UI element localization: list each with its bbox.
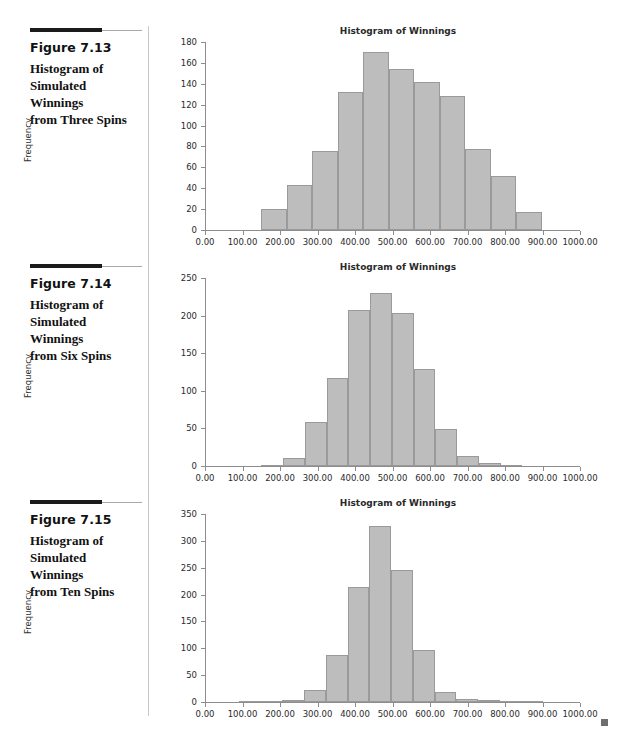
histogram-bar [305,422,327,466]
x-tick [355,703,356,707]
figure-number: Figure 7.14 [30,276,142,291]
histogram-bar [435,692,457,702]
x-tick [318,467,319,471]
y-tick-label: 100 [167,643,197,653]
x-tick [580,231,581,235]
y-tick [201,105,205,106]
figure-caption: Figure 7.14Histogram ofSimulated Winning… [30,264,142,365]
histogram-bar [440,96,466,230]
x-tick [205,703,206,707]
caption-line: from Three Spins [30,111,142,128]
y-tick-label: 160 [167,58,197,68]
x-tick-label: 300.00 [303,709,333,719]
x-tick [318,703,319,707]
y-tick [201,568,205,569]
x-tick-label: 200.00 [265,473,295,483]
caption-line: Simulated Winnings [30,549,142,583]
x-tick [468,467,469,471]
caption-line: Histogram of [30,60,142,77]
x-tick [393,467,394,471]
histogram-bar [283,458,305,466]
histogram-bar [392,313,414,466]
x-tick [580,467,581,471]
y-tick-label: 50 [167,670,197,680]
x-tick [430,703,431,707]
histogram-bar [327,378,349,466]
histogram-bar [348,587,370,702]
x-tick [355,231,356,235]
document-page: Figure 7.13Histogram ofSimulated Winning… [0,0,620,742]
x-tick-label: 1000.00 [562,709,597,719]
x-tick-label: 600.00 [415,473,445,483]
caption-line: from Six Spins [30,347,142,364]
histogram-bar [312,151,338,230]
histogram-bar [348,310,370,466]
x-tick [430,467,431,471]
x-tick [468,231,469,235]
x-tick [355,467,356,471]
x-tick [468,703,469,707]
caption-line: Histogram of [30,532,142,549]
end-of-section-marker [601,719,608,726]
x-tick-label: 200.00 [265,237,295,247]
figure-caption-text: Histogram ofSimulated Winningsfrom Three… [30,60,142,129]
x-tick [393,231,394,235]
y-tick-label: 150 [167,348,197,358]
x-tick-label: 800.00 [490,709,520,719]
y-tick-label: 200 [167,590,197,600]
plot-area: 0501001502002503003500.00100.00200.00300… [205,514,580,702]
y-tick [201,84,205,85]
y-axis-label: Frequency [23,590,33,634]
x-tick-label: 600.00 [415,709,445,719]
y-tick [201,391,205,392]
histogram-bar [370,293,392,466]
x-tick-label: 900.00 [528,473,558,483]
x-tick [243,703,244,707]
x-tick [280,231,281,235]
y-tick [201,278,205,279]
chart-title: Histogram of Winnings [168,262,620,272]
y-tick-label: 180 [167,37,197,47]
y-tick [201,595,205,596]
y-axis-line [205,42,206,230]
y-tick-label: 120 [167,100,197,110]
histogram-bar [457,456,479,466]
x-tick [543,231,544,235]
y-tick [201,316,205,317]
y-tick [201,353,205,354]
y-tick [201,648,205,649]
histogram-bar [435,429,457,466]
y-axis-line [205,278,206,466]
x-tick-label: 100.00 [228,473,258,483]
x-tick-label: 800.00 [490,237,520,247]
y-axis-line [205,514,206,702]
histogram-bar [389,69,415,230]
y-tick-label: 60 [167,162,197,172]
caption-line: Simulated Winnings [30,77,142,111]
x-tick-label: 200.00 [265,709,295,719]
figure-caption-text: Histogram ofSimulated Winningsfrom Six S… [30,296,142,365]
y-tick [201,621,205,622]
histogram-bar [304,690,326,702]
caption-rule-thin [102,502,142,503]
histogram-bar [465,149,491,230]
caption-rule-thin [102,266,142,267]
caption-rule-thick [30,500,102,504]
y-tick-label: 350 [167,509,197,519]
x-tick-label: 100.00 [228,237,258,247]
x-tick-label: 0.00 [196,237,215,247]
y-tick [201,146,205,147]
histogram-bar [491,176,517,230]
caption-rule-thick [30,264,102,268]
caption-line: Histogram of [30,296,142,313]
plot-area: 0204060801001201401601800.00100.00200.00… [205,42,580,230]
x-tick-label: 700.00 [453,473,483,483]
x-tick-label: 900.00 [528,709,558,719]
x-tick-label: 300.00 [303,237,333,247]
y-tick [201,42,205,43]
y-axis-label: Frequency [23,118,33,162]
figure-caption-text: Histogram ofSimulated Winningsfrom Ten S… [30,532,142,601]
y-tick-label: 80 [167,141,197,151]
y-tick [201,188,205,189]
caption-rule [30,500,142,506]
